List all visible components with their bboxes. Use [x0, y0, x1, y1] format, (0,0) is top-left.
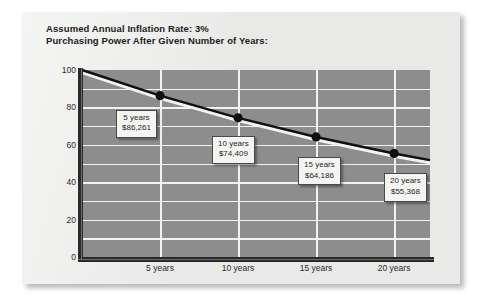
- callout-label-amount: $55,368: [390, 187, 421, 198]
- data-line-series: [82, 70, 430, 257]
- y-axis-tick-label: 100: [36, 65, 76, 75]
- data-point-callout: 10 years$74,409: [212, 136, 255, 164]
- y-axis-tick-label: 40: [36, 177, 76, 187]
- callout-label-years: 10 years: [218, 139, 249, 150]
- data-point-marker[interactable]: [155, 91, 164, 100]
- callout-label-amount: $64,186: [304, 171, 335, 182]
- data-point-callout: 15 years$64,186: [298, 157, 341, 185]
- callout-label-years: 5 years: [122, 113, 151, 124]
- y-axis-highlight: [81, 68, 82, 259]
- x-axis-tick-label: 10 years: [222, 263, 255, 273]
- callout-label-years: 20 years: [390, 176, 421, 187]
- callout-label-amount: $74,409: [218, 149, 249, 160]
- y-axis-tick-label: 60: [36, 140, 76, 150]
- data-point-callout: 20 years$55,368: [384, 173, 427, 201]
- chart-plot-wrapper: 100806040200 5 years10 years15 years20 y…: [60, 57, 450, 279]
- data-point-marker[interactable]: [390, 149, 399, 158]
- y-axis-tick-label: 80: [36, 102, 76, 112]
- x-axis-tick-label: 20 years: [378, 263, 411, 273]
- callout-label-amount: $86,261: [122, 123, 151, 134]
- x-axis-tick-label: 5 years: [146, 263, 174, 273]
- chart-title-line-2: Purchasing Power After Given Number of Y…: [46, 35, 268, 47]
- y-axis-tick-label: 20: [36, 215, 76, 225]
- chart-title-line-1: Assumed Annual Inflation Rate: 3%: [46, 23, 268, 35]
- y-axis-tick-label: 0: [36, 252, 76, 262]
- chart-title: Assumed Annual Inflation Rate: 3% Purcha…: [46, 23, 268, 47]
- data-point-callout: 5 years$86,261: [116, 110, 157, 138]
- data-point-marker[interactable]: [233, 113, 242, 122]
- callout-label-years: 15 years: [304, 160, 335, 171]
- x-axis-tick-label: 15 years: [300, 263, 333, 273]
- data-point-marker[interactable]: [311, 132, 320, 141]
- x-axis-highlight: [78, 259, 434, 260]
- chart-card: Assumed Annual Inflation Rate: 3% Purcha…: [22, 12, 460, 284]
